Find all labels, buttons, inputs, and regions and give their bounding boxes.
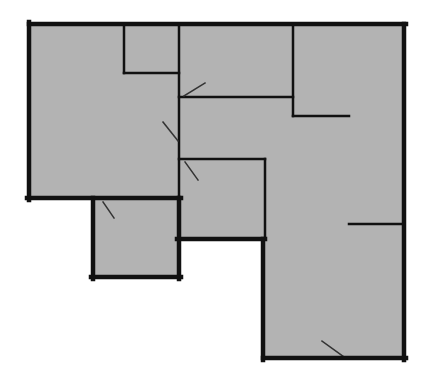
floor-plan [0,0,427,381]
floor-area [29,24,404,358]
